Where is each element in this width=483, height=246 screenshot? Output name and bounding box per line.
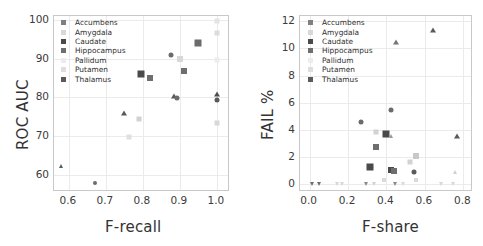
legend-item-label: Amygdala xyxy=(322,28,359,37)
legend-item-label: Caudate xyxy=(75,37,106,46)
legend-item-putamen[interactable]: Putamen xyxy=(60,65,126,74)
data-point-thalamus xyxy=(214,92,220,97)
data-point-pallidum xyxy=(214,19,219,24)
data-point-caudate xyxy=(138,71,145,78)
data-point-accumbens xyxy=(358,120,363,125)
data-point-putamen xyxy=(408,159,413,164)
legend-item-label: Hippocampus xyxy=(322,46,373,55)
x-axis-tick-label: 0.0 xyxy=(300,194,317,206)
data-point-accumbens xyxy=(389,108,394,113)
data-point-caudate xyxy=(366,163,373,170)
data-point-putamen xyxy=(373,130,378,135)
data-point-hippocampus xyxy=(147,75,153,81)
legend-item-label: Pallidum xyxy=(75,56,106,65)
x-axis-tick-label: 0.7 xyxy=(96,194,113,206)
legend-item-label: Thalamus xyxy=(322,75,358,84)
legend-swatch-icon xyxy=(308,77,313,82)
gridline-horizontal xyxy=(54,175,228,176)
legend-item-hippocampus[interactable]: Hippocampus xyxy=(307,46,373,55)
legend-swatch-icon xyxy=(61,77,66,82)
gridline-horizontal xyxy=(300,184,471,185)
x-axis-tick-label: 0.9 xyxy=(171,194,188,206)
legend-item-caudate[interactable]: Caudate xyxy=(60,37,126,46)
legend-item-amygdala[interactable]: Amygdala xyxy=(307,27,373,36)
legend-item-label: Amygdala xyxy=(75,28,112,37)
legend-swatch-icon xyxy=(61,67,66,72)
data-point-pallidum xyxy=(401,182,405,186)
legend-item-label: Accumbens xyxy=(322,18,365,27)
data-point-thalamus xyxy=(59,164,63,168)
legend-item-label: Putamen xyxy=(322,65,355,74)
y-axis-tick-label: 4 xyxy=(269,123,295,135)
legend-swatch-icon xyxy=(308,39,313,44)
data-point-putamen xyxy=(137,116,142,121)
data-point-amygdala xyxy=(451,182,455,186)
legend-item-thalamus[interactable]: Thalamus xyxy=(60,74,126,83)
y-axis-tick-label: 100 xyxy=(23,13,49,25)
legend-swatch-icon xyxy=(61,30,66,35)
data-point-thalamus xyxy=(454,134,460,139)
data-point-pallidum xyxy=(126,135,131,140)
data-point-putamen xyxy=(413,153,419,159)
legend-swatch-icon xyxy=(61,39,66,44)
y-axis-tick-label: 80 xyxy=(23,90,49,102)
legend-item-accumbens[interactable]: Accumbens xyxy=(307,18,373,27)
legend-item-thalamus[interactable]: Thalamus xyxy=(307,74,373,83)
legend-item-caudate[interactable]: Caudate xyxy=(307,37,373,46)
y-axis-tick-label: 10 xyxy=(269,41,295,53)
legend-item-label: Thalamus xyxy=(75,75,111,84)
y-axis-tick-label: 2 xyxy=(269,150,295,162)
data-point-thalamus xyxy=(317,182,321,186)
x-axis-tick-label: 0.8 xyxy=(454,194,471,206)
data-point-accumbens xyxy=(168,53,173,58)
x-axis-tick-label: 1.0 xyxy=(208,194,225,206)
data-point-accumbens xyxy=(412,169,417,174)
legend-swatch-icon xyxy=(308,58,313,63)
data-point-thalamus xyxy=(364,182,368,186)
legend-swatch-icon xyxy=(61,20,66,25)
data-point-accumbens xyxy=(175,95,180,100)
y-axis-tick-label: 8 xyxy=(269,69,295,81)
data-point-thalamus xyxy=(393,40,399,45)
legend-swatch-icon xyxy=(308,20,313,25)
data-point-caudate xyxy=(194,40,201,47)
legend-item-pallidum[interactable]: Pallidum xyxy=(60,56,126,65)
legend-item-label: Caudate xyxy=(322,37,353,46)
scatter-figure: ROC AUC F-recall AccumbensAmygdalaCaudat… xyxy=(0,0,483,246)
y-axis-tick-label: 70 xyxy=(23,129,49,141)
legend-item-label: Putamen xyxy=(75,65,108,74)
data-point-pallidum xyxy=(414,178,418,182)
x-axis-tick-label: 0.2 xyxy=(339,194,356,206)
legend-swatch-icon xyxy=(61,58,66,63)
y-axis-tick-label: 90 xyxy=(23,52,49,64)
data-point-amygdala xyxy=(214,30,219,35)
x-axis-tick-label: 0.6 xyxy=(416,194,433,206)
data-point-pallidum xyxy=(372,182,376,186)
legend-right: AccumbensAmygdalaCaudateHippocampusPalli… xyxy=(307,18,373,84)
data-point-hippocampus xyxy=(391,168,397,174)
data-point-thalamus xyxy=(393,182,397,186)
data-point-thalamus xyxy=(310,182,314,186)
x-axis-label-left: F-recall xyxy=(105,218,161,236)
gridline-horizontal xyxy=(54,97,228,98)
panel-roc-auc: ROC AUC F-recall AccumbensAmygdalaCaudat… xyxy=(0,0,241,246)
y-axis-tick-label: 12 xyxy=(269,14,295,26)
legend-item-hippocampus[interactable]: Hippocampus xyxy=(60,46,126,55)
y-axis-tick-label: 0 xyxy=(269,177,295,189)
panel-fail-pct: FAIL % F-share AccumbensAmygdalaCaudateH… xyxy=(241,0,482,246)
x-axis-label-right: F-share xyxy=(362,218,419,236)
data-point-amygdala xyxy=(453,170,457,174)
y-axis-tick-label: 60 xyxy=(23,168,49,180)
legend-swatch-icon xyxy=(61,48,66,53)
x-axis-tick-label: 0.4 xyxy=(377,194,394,206)
legend-item-putamen[interactable]: Putamen xyxy=(307,65,373,74)
gridline-vertical xyxy=(217,16,218,190)
legend-item-accumbens[interactable]: Accumbens xyxy=(60,18,126,27)
gridline-horizontal xyxy=(54,136,228,137)
legend-item-amygdala[interactable]: Amygdala xyxy=(60,27,126,36)
data-point-accumbens xyxy=(214,97,219,102)
data-point-amygdala xyxy=(439,182,443,186)
legend-item-pallidum[interactable]: Pallidum xyxy=(307,56,373,65)
data-point-pallidum xyxy=(214,58,219,63)
data-point-pallidum xyxy=(382,178,386,182)
